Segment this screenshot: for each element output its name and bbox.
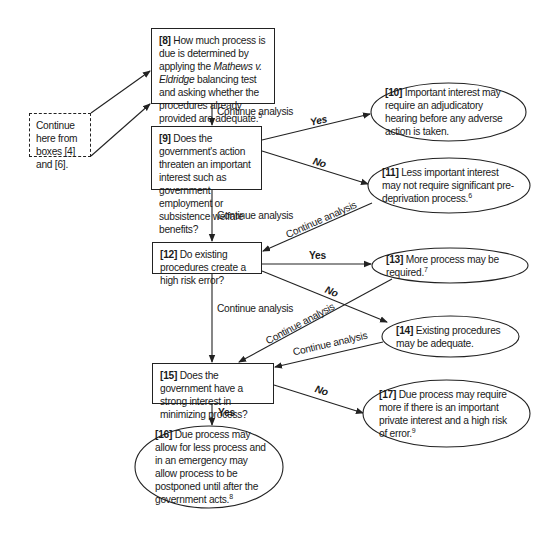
ellipse-16-number: [16] xyxy=(155,429,172,440)
ellipse-11-number: [11] xyxy=(382,167,399,178)
arrow-start-to-8-a xyxy=(91,71,150,113)
box-9-number: [9] xyxy=(159,133,171,144)
ellipse-17-footnote: 9 xyxy=(412,426,416,433)
ellipse-13-number: [13] xyxy=(386,254,403,265)
box-12-number: [12] xyxy=(160,249,177,260)
box-9-text: Does the government's action threaten an… xyxy=(159,133,251,235)
ellipse-14-number: [14] xyxy=(396,325,413,336)
ellipse-11: [11] Less important interest may not req… xyxy=(368,158,530,213)
label-12-to-15: Continue analysis xyxy=(217,303,293,314)
ellipse-13-text: More process may be required. xyxy=(386,254,499,278)
box-15: [15] Does the government have a strong i… xyxy=(152,363,274,404)
start-box: Continue here from boxes [4] and [6]. xyxy=(29,113,91,157)
ellipse-10-text: Important interest may require an adjudi… xyxy=(385,87,503,137)
ellipse-10-number: [10] xyxy=(385,87,402,98)
ellipse-10: [10] Important interest may require an a… xyxy=(371,83,526,141)
box-8-footnote: 5 xyxy=(258,112,262,119)
box-12: [12] Do existing procedures create a hig… xyxy=(152,242,262,274)
box-8: [8] How much process is due is determine… xyxy=(151,28,275,104)
box-8-number: [8] xyxy=(159,35,171,46)
ellipse-17: [17] Due process may require more if the… xyxy=(363,380,530,447)
ellipse-17-text: Due process may require more if there is… xyxy=(379,389,507,439)
ellipse-11-text: Less important interest may not require … xyxy=(382,167,514,204)
ellipse-17-number: [17] xyxy=(379,389,396,400)
box-9: [9] Does the government's action threate… xyxy=(151,126,262,190)
ellipse-16: [16] Due process may allow for less proc… xyxy=(135,426,283,508)
ellipse-16-footnote: 8 xyxy=(229,493,233,500)
ellipse-13: [13] More process may be required.7 xyxy=(372,248,528,283)
label-12-to-13-yes: Yes xyxy=(309,250,326,261)
ellipse-11-footnote: 6 xyxy=(468,192,472,199)
ellipse-13-footnote: 7 xyxy=(424,265,428,272)
arrow-start-to-8-b xyxy=(91,104,150,156)
box-15-number: [15] xyxy=(160,370,177,381)
ellipse-14: [14] Existing procedures may be adequate… xyxy=(382,316,519,357)
ellipse-16-text: Due process may allow for less process a… xyxy=(155,429,266,505)
